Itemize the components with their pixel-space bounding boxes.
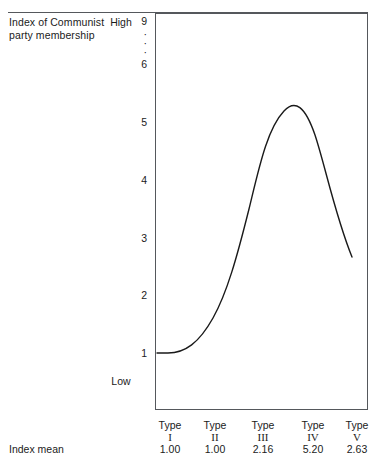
y-tick-label-3: 3 — [127, 233, 147, 244]
category-label: Type — [237, 419, 289, 431]
y-tick-label-9: 9 — [127, 16, 147, 27]
y-tick-label-5: 5 — [127, 117, 147, 128]
y-tick-ellipsis: · — [127, 48, 147, 57]
category-label: Type — [189, 419, 241, 431]
y-tick-label-6: 6 — [127, 59, 147, 70]
y-axis-caption: Index of Communist party membership — [9, 16, 105, 41]
category-numeral: V — [331, 431, 383, 443]
index-mean-row-label: Index mean — [9, 443, 64, 455]
y-tick-label-4: 4 — [127, 175, 147, 186]
y-tick-label-1: 1 — [127, 348, 147, 359]
distribution-curve — [155, 13, 368, 410]
y-axis-low-label: Low — [100, 375, 142, 387]
category-numeral: III — [237, 431, 289, 443]
index-mean-value-type-iii: 2.16 — [237, 443, 289, 455]
figure-container: Index of Communist party membership High… — [0, 0, 383, 462]
y-tick-label-2: 2 — [127, 290, 147, 301]
category-header-type-iii: Type III — [237, 419, 289, 443]
index-mean-value-type-v: 2.63 — [331, 443, 383, 455]
category-label: Type — [331, 419, 383, 431]
category-numeral: II — [189, 431, 241, 443]
category-header-type-v: Type V — [331, 419, 383, 443]
category-header-type-ii: Type II — [189, 419, 241, 443]
index-mean-value-type-ii: 1.00 — [189, 443, 241, 455]
